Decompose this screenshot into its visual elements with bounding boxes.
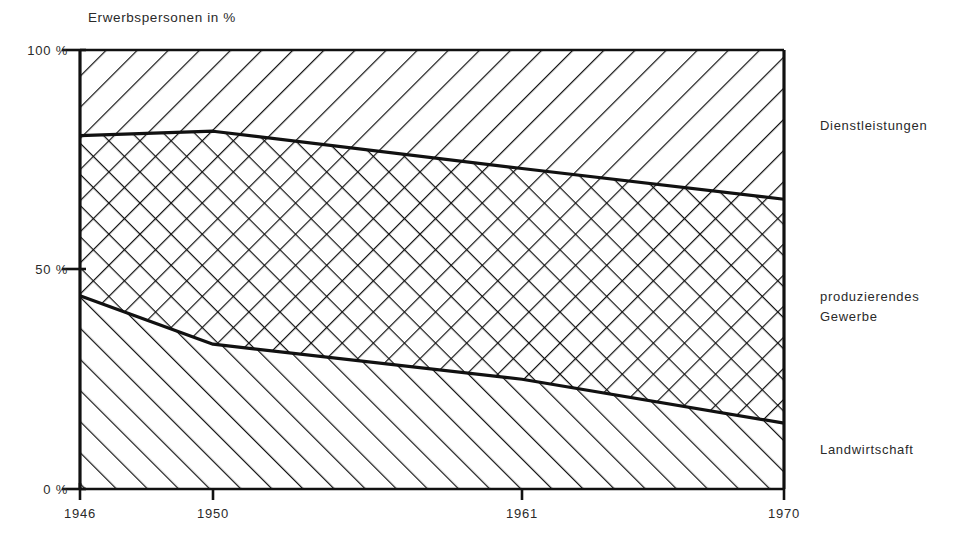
y-axis-tick-label-100: 100 % [27, 43, 68, 58]
x-axis-tick-label-1950: 1950 [197, 506, 229, 521]
chart-container: Erwerbspersonen in % 100 % 50 % 0 % 1946… [0, 0, 954, 542]
y-axis-tick-label-0: 0 % [43, 482, 68, 497]
chart-plot-area [0, 0, 954, 542]
x-axis-tick-label-1970: 1970 [768, 506, 800, 521]
y-axis-tick-label-50: 50 % [35, 262, 68, 277]
x-axis-tick-label-1946: 1946 [64, 506, 96, 521]
chart-axis-title: Erwerbspersonen in % [88, 10, 236, 25]
series-label-dienstleistungen: Dienstleistungen [820, 116, 927, 136]
series-label-produzierendes-gewerbe: produzierendes Gewerbe [820, 287, 919, 327]
x-axis-tick-label-1961: 1961 [506, 506, 538, 521]
series-label-landwirtschaft: Landwirtschaft [820, 440, 914, 460]
